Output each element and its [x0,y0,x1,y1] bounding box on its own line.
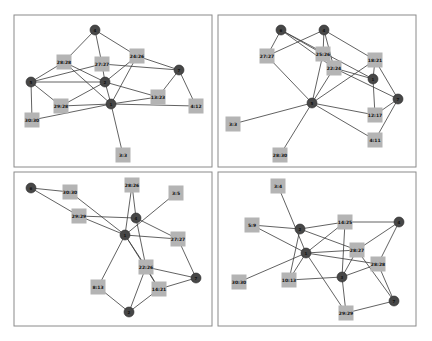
circle-node-label: 4 [135,216,138,221]
box-node-label: 3:3 [119,153,127,158]
box-node-label: 14:25 [338,220,352,225]
box-node: 22:24 [327,61,342,76]
box-node-label: 24:26 [130,54,144,59]
circle-node: 3 [337,272,347,282]
box-node: 28:27 [350,243,365,258]
box-node-label: 29:29 [339,311,353,316]
box-node: 30:30 [232,275,247,290]
circle-node-label: 7 [393,299,396,304]
box-node: 14:21 [152,282,167,297]
box-node-label: 30:30 [232,280,246,285]
box-node-label: 28:28 [371,262,385,267]
circle-node-label: 1 [372,77,375,82]
box-node-label: 22:26 [139,265,153,270]
box-node-label: 30:30 [63,190,77,195]
circle-node-label: 3 [341,275,344,280]
box-node-label: 22:24 [327,66,341,71]
circle-node: 1 [368,74,378,84]
box-node-label: 8:13 [92,285,103,290]
box-node: 14:25 [338,215,353,230]
circle-node: 7 [389,296,399,306]
circle-node-label: 4 [323,28,326,33]
box-node-label: 4:12 [190,104,201,109]
box-node-label: 28:26 [125,183,139,188]
circle-node: 7 [393,94,403,104]
box-node-label: 30:30 [25,118,39,123]
circle-node-label: 5 [30,80,33,85]
circle-node-label: 7 [195,276,198,281]
circle-node-label: 1 [124,233,127,238]
box-node-label: 13:23 [151,95,165,100]
circle-node: 1 [106,99,116,109]
box-node: 30:30 [63,185,78,200]
box-node: 27:27 [260,49,275,64]
box-node-label: 27:27 [95,62,109,67]
circle-node: 2 [124,307,134,317]
box-node: 3:4 [271,179,286,194]
box-node-label: 28:28 [57,60,71,65]
box-node-label: 3:3 [229,122,237,127]
box-node-label: 29:29 [72,214,86,219]
circle-node-label: 1 [110,102,113,107]
box-node: 22:26 [139,260,154,275]
box-node: 4:12 [189,99,204,114]
circle-node: 5 [26,77,36,87]
graph-figure: 28:2827:2724:2613:234:1229:2830:303:3452… [0,0,432,341]
box-node: 13:23 [151,90,166,105]
circle-node-label: 7 [178,68,181,73]
box-node: 29:29 [72,209,87,224]
box-node: 27:27 [95,57,110,72]
circle-node-label: 5 [311,101,314,106]
box-node: 3:3 [116,148,131,163]
panel-top-left: 28:2827:2724:2613:234:1229:2830:303:3452… [14,15,212,167]
box-node: 3:5 [169,186,184,201]
circle-node-label: 4 [94,28,97,33]
circle-node: 4 [90,25,100,35]
box-node-label: 25:26 [316,52,330,57]
box-node: 29:28 [54,99,69,114]
box-node: 12:17 [368,108,383,123]
circle-node: 1 [120,230,130,240]
box-node-label: 5:9 [248,223,256,228]
box-node: 25:26 [316,47,331,62]
box-node: 10:13 [282,273,297,288]
circle-node: 5 [307,98,317,108]
circle-node: 7 [191,273,201,283]
circle-node: 6 [276,25,286,35]
box-node-label: 27:27 [171,237,185,242]
panel-frame [14,15,212,167]
circle-node: 4 [131,213,141,223]
box-node-label: 10:13 [282,278,296,283]
panel-frame [218,15,416,167]
circle-node: 2 [295,224,305,234]
circle-node-label: 2 [104,80,107,85]
circle-node: 4 [394,217,404,227]
box-node-label: 3:4 [274,184,282,189]
box-node: 27:27 [171,232,186,247]
circle-node-label: 2 [128,310,131,315]
circle-node: 4 [319,25,329,35]
box-node-label: 29:28 [54,104,68,109]
box-node-label: 18:21 [368,58,382,63]
box-node: 5:9 [245,218,260,233]
box-node: 28:28 [371,257,386,272]
box-node-label: 28:27 [350,248,364,253]
box-node-label: 27:27 [260,54,274,59]
circle-node-label: 4 [398,220,401,225]
box-node: 4:11 [368,133,383,148]
panel-bottom-left: 30:3029:2928:263:527:2722:268:1314:21641… [14,172,212,326]
box-node-label: 12:17 [368,113,382,118]
circle-node-label: 6 [30,186,33,191]
circle-node-label: 7 [397,97,400,102]
panel-bottom-right: 3:45:914:2528:2728:2830:3010:1329:292143… [218,172,416,326]
box-node: 8:13 [91,280,106,295]
circle-node: 1 [301,248,311,258]
panel-top-right: 27:2725:2622:2418:2112:174:113:328:30645… [218,15,416,167]
circle-node: 2 [100,77,110,87]
box-node-label: 3:5 [172,191,180,196]
circle-node-label: 1 [305,251,308,256]
box-node: 28:28 [57,55,72,70]
box-node: 29:29 [339,306,354,321]
box-node-label: 28:30 [273,153,287,158]
box-node-label: 14:21 [152,287,166,292]
